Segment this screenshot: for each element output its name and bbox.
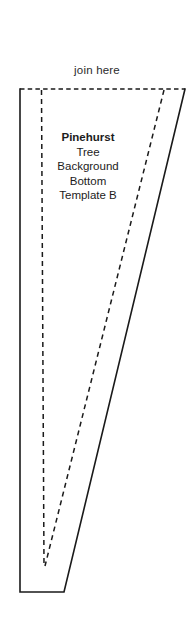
caption-line-4: Template B (38, 188, 138, 203)
caption-line-1: Tree (38, 145, 138, 160)
join-here-label: join here (0, 64, 194, 76)
caption-line-2: Background (38, 159, 138, 174)
pattern-sheet: join here Pinehurst Tree Background Bott… (0, 0, 194, 641)
paper-background (0, 0, 194, 641)
piece-caption: Pinehurst Tree Background Bottom Templat… (38, 130, 138, 203)
caption-line-title: Pinehurst (38, 130, 138, 145)
caption-line-3: Bottom (38, 174, 138, 189)
pattern-drawing (0, 0, 194, 641)
